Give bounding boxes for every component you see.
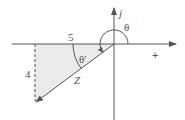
hypotenuse-label: Z — [74, 74, 81, 86]
vertical-side-label: 4 — [25, 68, 31, 80]
complex-plane-diagram: j θ + 5 4 θ′ Z — [0, 0, 185, 120]
imaginary-axis-label: j — [117, 7, 122, 19]
theta-label: θ — [124, 21, 129, 33]
theta-prime-label: θ′ — [79, 53, 87, 65]
positive-axis-label: + — [152, 49, 158, 61]
horizontal-side-label: 5 — [68, 31, 74, 43]
